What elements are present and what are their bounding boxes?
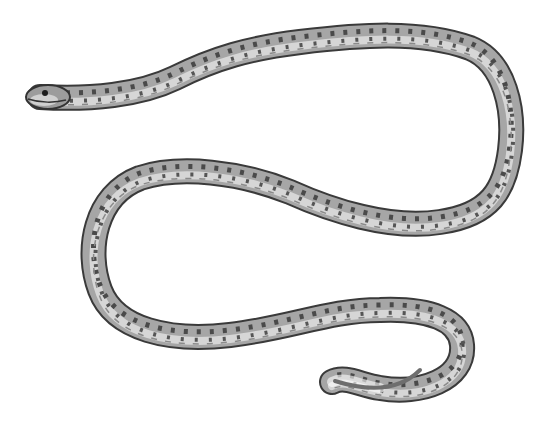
snake-drawing [0,0,545,436]
snake-body [40,36,511,390]
snake-head [26,85,70,109]
snake-eye-icon [42,90,48,96]
snake-illustration [0,0,545,436]
